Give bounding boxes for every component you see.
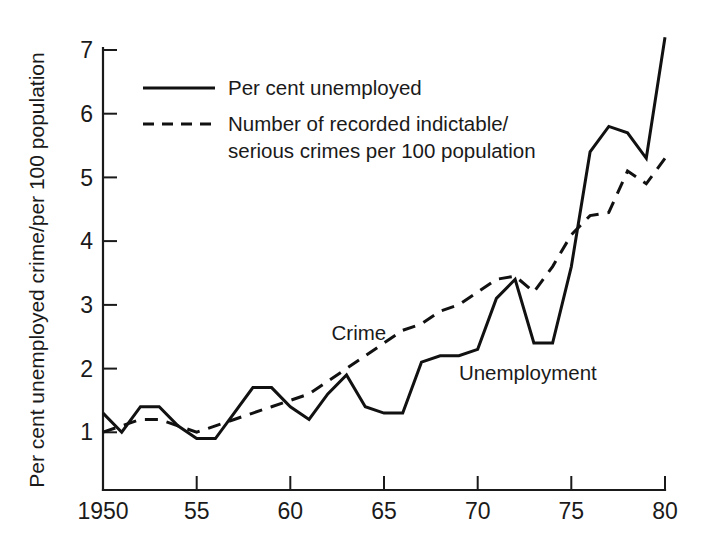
x-tick-label-75: 75 [559, 498, 585, 524]
y-tick-label-6: 6 [80, 101, 93, 127]
chart-legend: Per cent unemployed Number of recorded i… [143, 76, 536, 162]
x-tick-label-55: 55 [184, 498, 210, 524]
x-tick-label-65: 65 [371, 498, 397, 524]
y-tick-label-3: 3 [80, 292, 93, 318]
chart-page: 7 6 5 4 3 2 1 1950 55 60 65 70 75 80 Per… [0, 0, 713, 556]
y-axis-title: Per cent unemployed crime/per 100 popula… [25, 52, 48, 487]
legend-label-unemployed: Per cent unemployed [228, 76, 422, 99]
y-tick-marks [103, 50, 117, 432]
legend-label-crime-line1: Number of recorded indictable/ [228, 112, 509, 135]
line-chart: 7 6 5 4 3 2 1 1950 55 60 65 70 75 80 Per… [0, 0, 713, 556]
legend-label-crime-line2: serious crimes per 100 population [228, 139, 536, 162]
y-tick-label-7: 7 [80, 37, 93, 63]
x-tick-marks [103, 476, 665, 490]
annotation-unemployment: Unemployment [459, 361, 597, 384]
annotation-crime: Crime [332, 321, 387, 344]
series-line-crime [103, 158, 665, 432]
x-tick-label-60: 60 [278, 498, 304, 524]
y-tick-label-5: 5 [80, 165, 93, 191]
x-tick-label-80: 80 [652, 498, 678, 524]
x-tick-label-1950: 1950 [77, 498, 128, 524]
y-tick-label-2: 2 [80, 356, 93, 382]
y-tick-label-1: 1 [80, 419, 93, 445]
x-tick-label-70: 70 [465, 498, 491, 524]
y-tick-label-4: 4 [80, 228, 93, 254]
